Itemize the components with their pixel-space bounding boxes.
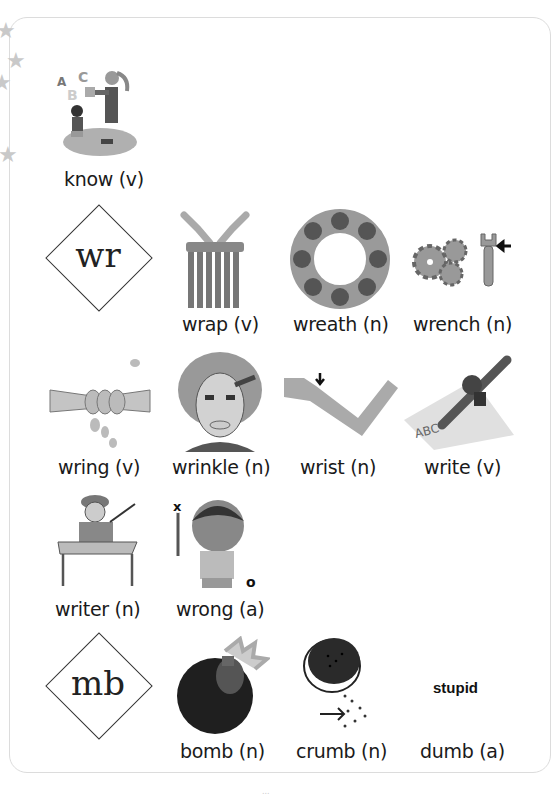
star-icon: ★ bbox=[6, 50, 26, 72]
word-label-wring: wring (v) bbox=[58, 456, 140, 478]
svg-text:o: o bbox=[246, 574, 256, 590]
word-label-know: know (v) bbox=[64, 168, 144, 190]
word-label-wrist: wrist (n) bbox=[300, 456, 376, 478]
wring-illustration bbox=[45, 350, 155, 450]
pattern-diamond-mb: mb bbox=[46, 633, 150, 737]
word-label-wrinkle: wrinkle (n) bbox=[172, 456, 270, 478]
word-label-wrap: wrap (v) bbox=[182, 313, 259, 335]
dumb-picture-text: stupid bbox=[433, 679, 478, 696]
word-label-write: write (v) bbox=[424, 456, 501, 478]
word-label-writer: writer (n) bbox=[55, 598, 141, 620]
word-label-wrench: wrench (n) bbox=[413, 313, 512, 335]
wrist-illustration bbox=[282, 368, 400, 438]
word-label-wreath: wreath (n) bbox=[293, 313, 389, 335]
word-label-bomb: bomb (n) bbox=[180, 740, 265, 762]
writer-illustration bbox=[55, 492, 140, 592]
wrong-illustration: x o bbox=[170, 496, 265, 596]
page-number: ... bbox=[262, 787, 270, 794]
star-icon: ★ bbox=[0, 72, 12, 94]
svg-text:C: C bbox=[78, 69, 88, 85]
word-label-dumb: dumb (a) bbox=[420, 740, 505, 762]
svg-text:x: x bbox=[173, 499, 182, 514]
bomb-illustration bbox=[170, 636, 270, 736]
know-illustration: A B C bbox=[55, 65, 145, 160]
crumb-illustration bbox=[300, 636, 380, 736]
wrinkle-illustration bbox=[175, 350, 265, 452]
wrench-illustration bbox=[405, 232, 515, 292]
wreath-illustration bbox=[285, 207, 395, 311]
svg-text:A: A bbox=[57, 75, 67, 89]
word-label-crumb: crumb (n) bbox=[296, 740, 387, 762]
svg-text:B: B bbox=[67, 87, 78, 103]
star-icon: ★ bbox=[0, 20, 16, 42]
wrap-illustration bbox=[180, 210, 250, 310]
pattern-diamond-wr: wr bbox=[46, 205, 150, 309]
word-label-wrong: wrong (a) bbox=[176, 598, 264, 620]
write-illustration: ABC bbox=[402, 350, 517, 450]
star-icon: ★ bbox=[0, 144, 18, 166]
